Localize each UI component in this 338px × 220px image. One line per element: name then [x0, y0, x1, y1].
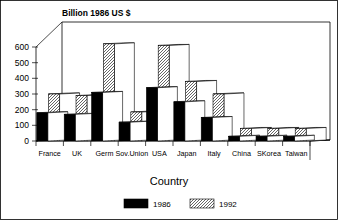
bar-front — [256, 136, 267, 141]
bar-group-1986-germ — [92, 91, 123, 141]
bar-front — [64, 114, 75, 141]
y-tick-label-100: 100 — [15, 120, 29, 130]
chart-legend: 1986 1992 — [124, 199, 237, 209]
x-axis-label-sov-union: Sov.Union — [116, 149, 149, 158]
bars-layer — [37, 43, 326, 141]
bar-group-1986-italy — [201, 117, 232, 142]
y-tick-label-400: 400 — [15, 73, 29, 83]
x-axis-label-italy: Italy — [208, 149, 222, 158]
bar-front — [201, 118, 212, 142]
bar-group-1986-japan — [174, 101, 205, 141]
bar-front — [283, 136, 294, 141]
legend-label-1992: 1992 — [219, 200, 237, 209]
x-axis-label-usa: USA — [152, 149, 167, 158]
bar-group-1986-china — [229, 135, 260, 141]
bar-group-1986-usa — [146, 87, 177, 141]
x-axis-label-taiwan: Taiwan — [285, 149, 307, 158]
legend-label-1986: 1986 — [153, 200, 171, 209]
bar-group-1986-sov-union — [119, 121, 150, 141]
bar-group-1986-uk — [64, 113, 95, 141]
y-tick-label-0: 0 — [24, 136, 29, 146]
y-tick-label-500: 500 — [15, 58, 29, 68]
chart-container: 600 500 400 300 200 100 0 FranceUKGermSo… — [0, 0, 338, 220]
y-tick-label-300: 300 — [15, 89, 29, 99]
bar-front — [174, 102, 185, 141]
bar-front — [37, 113, 48, 141]
bar-front — [229, 136, 240, 141]
bar-group-1986-france — [37, 112, 68, 141]
legend-swatch-1992 — [190, 199, 214, 208]
y-axis-tick-labels: 600 500 400 300 200 100 0 — [15, 42, 29, 146]
legend-swatch-1986 — [124, 199, 148, 208]
y-tick-label-600: 600 — [15, 42, 29, 52]
bar-group-1986-taiwan — [283, 135, 314, 141]
x-axis-label-skorea: SKorea — [257, 149, 281, 158]
chart-title: Billion 1986 US $ — [62, 8, 131, 18]
x-axis-label-japan: Japan — [177, 149, 197, 158]
x-axis-label-germ: Germ — [96, 149, 114, 158]
x-axis-title: Country — [150, 175, 189, 187]
bar-front — [119, 122, 130, 141]
bar-front — [92, 92, 103, 141]
bar-side — [294, 135, 314, 141]
x-axis-label-china: China — [232, 149, 251, 158]
bar-chart-3d: 600 500 400 300 200 100 0 FranceUKGermSo… — [0, 0, 338, 220]
x-axis-label-france: France — [39, 149, 61, 158]
x-axis-label-uk: UK — [72, 149, 82, 158]
x-axis-ticks — [36, 141, 310, 146]
depth-edge-top-left — [36, 22, 62, 47]
bar-front — [146, 88, 157, 141]
bar-group-1986-skorea — [256, 135, 287, 141]
y-tick-label-200: 200 — [15, 105, 29, 115]
x-axis-category-labels: FranceUKGermSov.UnionUSAJapanItalyChinaS… — [39, 149, 308, 158]
